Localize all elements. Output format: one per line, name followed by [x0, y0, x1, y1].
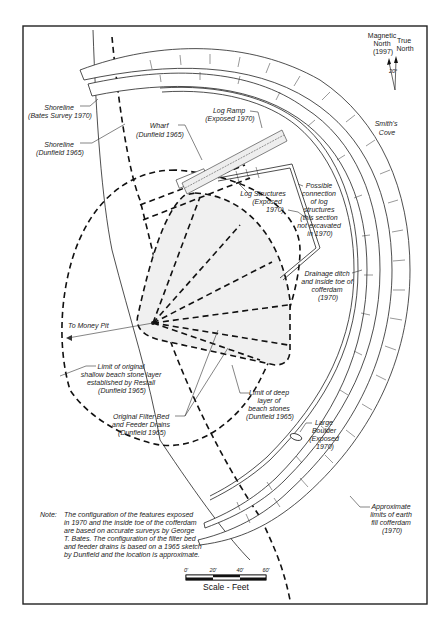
scale-bar: 0' 20' 40' 60' Scale - Feet: [184, 567, 271, 592]
north-arrow: 20°: [387, 56, 398, 90]
shoreline-dunfield-label: Shoreline (Dunfield 1965): [36, 141, 84, 157]
scale-tick-60: 60': [262, 567, 270, 573]
to-money-pit-label: To Money Pit: [68, 322, 110, 330]
note-prefix: Note:: [40, 511, 57, 518]
scale-title: Scale - Feet: [203, 582, 249, 592]
filter-bed-fan: [137, 193, 290, 365]
filter-bed-label: Original Filter Bed and Feeder Drains (D…: [112, 413, 172, 437]
log-ramp-label: Log Ramp (Exposed 1970): [205, 107, 254, 123]
large-boulder-shape: [289, 432, 302, 442]
smiths-cove-site-map: 20° Magnetic North (1997) True North Smi…: [0, 0, 447, 627]
scale-tick-20: 20': [208, 567, 217, 573]
wharf-label: Wharf (Dunfield 1965): [136, 122, 184, 139]
limit-deep-layer-label: Limit of deep layer of beach stones (Dun…: [246, 389, 294, 421]
cofferdam-limits-label: Approximate limits of earth fill cofferd…: [370, 503, 414, 535]
limit-shallow-layer-label: Limit of original shallow beach stone la…: [81, 363, 164, 395]
log-structures-label: Log Structures (Exposed 1970): [240, 190, 287, 214]
scale-tick-40: 40': [236, 567, 244, 573]
possible-connection-label: Possible connection of log structures (t…: [297, 182, 343, 238]
drainage-ditch-label: Drainage ditch and inside toe of cofferd…: [301, 270, 354, 302]
true-north-label: True North: [396, 37, 413, 52]
magnetic-north-label: Magnetic North (1997): [368, 32, 398, 56]
scale-tick-0: 0': [184, 567, 189, 573]
smiths-cove-label: Smith's Cove: [375, 120, 400, 136]
log-ramp: [182, 130, 287, 194]
shoreline-bates-label: Shoreline (Bates Survey 1970): [28, 104, 92, 120]
declination-label: 20°: [388, 68, 398, 74]
note-text: The configuration of the features expose…: [64, 511, 204, 559]
